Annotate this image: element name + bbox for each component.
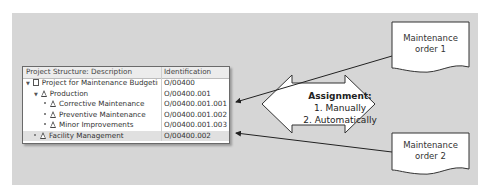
row-description: Production [50,89,88,98]
table-row[interactable]: Preventive Maintenance O/00400.001.002 [23,110,229,121]
expand-arrow-icon[interactable]: ▼ [26,78,30,89]
table-row[interactable]: ▼Production O/00400.001 [23,89,229,100]
leaf-bullet-icon [44,102,46,104]
table-header-row: Project Structure: Description Identific… [23,67,229,79]
assignment-option-automatically: 2. Automatically [300,114,380,126]
table-row[interactable]: ▼Project for Maintenance Budgetir O/0040… [23,78,229,89]
document-number: order 1 [392,44,469,55]
row-description: Minor Improvements [59,120,134,129]
document-label-order-1: Maintenance order 1 [392,33,469,55]
wbs-triangle-icon [41,90,47,97]
row-description: Project for Maintenance Budgetir [42,78,158,87]
connector-order-2 [236,133,392,152]
expand-arrow-icon[interactable]: ▼ [34,89,38,100]
header-identification: Identification [161,67,230,78]
assignment-label: Assignment: 1. Manually 2. Automatically [300,90,380,126]
header-description: Project Structure: Description [26,67,158,78]
row-description: Corrective Maintenance [59,99,144,108]
row-description: Facility Management [49,131,124,140]
assignment-option-manually: 1. Manually [300,102,380,114]
row-id: O/00400 [161,78,230,89]
row-id: O/00400.002 [161,131,230,142]
table-row[interactable]: Minor Improvements O/00400.001.003 [23,120,229,131]
document-number: order 2 [392,151,469,162]
document-title: Maintenance [392,140,469,151]
row-id: O/00400.001 [161,89,230,100]
row-id: O/00400.001.001 [161,99,230,110]
leaf-bullet-icon [44,113,46,115]
leaf-bullet-icon [44,123,46,125]
wbs-triangle-icon [40,132,46,139]
wbs-triangle-icon [50,100,56,107]
project-icon [33,79,39,86]
leaf-bullet-icon [34,134,36,136]
table-row[interactable]: Corrective Maintenance O/00400.001.001 [23,99,229,110]
row-id: O/00400.001.002 [161,110,230,121]
row-description: Preventive Maintenance [59,110,146,119]
wbs-triangle-icon [50,111,56,118]
row-id: O/00400.001.003 [161,120,230,131]
document-title: Maintenance [392,33,469,44]
project-structure-table: Project Structure: Description Identific… [22,66,230,144]
wbs-triangle-icon [50,121,56,128]
document-label-order-2: Maintenance order 2 [392,140,469,162]
assignment-title: Assignment: [300,90,380,102]
table-row-selected[interactable]: Facility Management O/00400.002 [23,131,229,142]
